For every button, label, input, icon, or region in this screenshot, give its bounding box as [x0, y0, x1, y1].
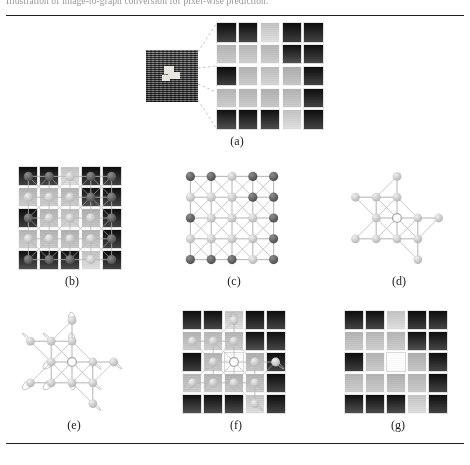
top-running-caption: Illustration of image-to-graph conversio…	[6, 0, 466, 8]
pixel-cell	[216, 66, 237, 87]
pixel-cell	[407, 352, 427, 372]
graph-node	[393, 172, 402, 181]
graph-node	[68, 316, 77, 325]
graph-node	[248, 255, 257, 264]
graph-node	[24, 255, 33, 264]
graph-node	[413, 214, 422, 223]
caption-a: (a)	[142, 134, 332, 149]
pixel-cell	[282, 44, 303, 65]
caption-c: (c)	[180, 274, 288, 289]
panel-c: (c)	[180, 166, 288, 292]
pixel-cell	[216, 44, 237, 65]
caption-d: (d)	[345, 274, 453, 289]
pixel-cell	[216, 88, 237, 109]
graph-node	[248, 193, 257, 202]
graph-node	[207, 213, 216, 222]
graph-edge	[30, 362, 51, 383]
graph-node	[227, 255, 236, 264]
graph-node	[186, 255, 195, 264]
graph-node	[230, 337, 239, 346]
pixel-cell	[303, 44, 324, 65]
graph-node	[65, 193, 74, 202]
pixel-cell	[386, 331, 406, 351]
graph-edge	[355, 197, 376, 218]
rule-top	[6, 15, 464, 16]
graph-node	[86, 234, 95, 243]
graph-overlay-b	[18, 166, 122, 270]
graph-edge	[255, 362, 276, 383]
graph-node-centre	[230, 358, 239, 367]
pixel-grid-a	[216, 22, 324, 130]
pixel-cell	[303, 109, 324, 130]
graph-node	[250, 358, 259, 367]
patch-with-graph-b	[18, 166, 122, 270]
pixel-cell	[428, 352, 448, 372]
graph-node	[45, 172, 54, 181]
source-image-thumbnail	[146, 50, 198, 102]
graph-node	[88, 399, 97, 408]
graph-node	[227, 213, 236, 222]
graph-node	[65, 172, 74, 181]
graph-node	[68, 337, 77, 346]
graph-node	[86, 255, 95, 264]
pixel-cell	[386, 352, 406, 372]
graph-node	[269, 255, 278, 264]
pixel-cell	[428, 310, 448, 330]
graph-node	[86, 213, 95, 222]
caption-b: (b)	[18, 274, 126, 289]
graph-node	[24, 234, 33, 243]
graph-node	[372, 193, 381, 202]
graph-node	[109, 358, 118, 367]
graph-node	[413, 255, 422, 264]
graph-node	[186, 213, 195, 222]
graph-node	[107, 213, 116, 222]
graph-node	[24, 193, 33, 202]
graph-node	[207, 255, 216, 264]
graph-node	[107, 255, 116, 264]
rule-bottom	[6, 443, 464, 444]
pixel-cell	[428, 394, 448, 414]
pixel-cell	[344, 352, 364, 372]
graph-node-centre	[393, 214, 402, 223]
graph-node	[269, 213, 278, 222]
panel-b: (b)	[18, 166, 126, 292]
graph-node	[88, 378, 97, 387]
pixel-cell	[282, 88, 303, 109]
figure-page: Illustration of image-to-graph conversio…	[0, 0, 470, 465]
pixel-cell	[386, 373, 406, 393]
graph-node	[207, 193, 216, 202]
graph-node	[269, 172, 278, 181]
graph-node	[65, 255, 74, 264]
pixel-cell	[344, 394, 364, 414]
graph-edge	[397, 239, 418, 260]
graph-node	[227, 172, 236, 181]
graph-node	[65, 213, 74, 222]
graph-node	[351, 234, 360, 243]
graph-edge	[93, 362, 114, 383]
pixel-cell	[260, 66, 281, 87]
graph-node	[230, 316, 239, 325]
pixel-cell	[407, 394, 427, 414]
graph-edge	[376, 176, 397, 197]
pixel-cell	[407, 310, 427, 330]
pixel-cell	[260, 22, 281, 43]
pixel-cell	[238, 109, 259, 130]
caption-f: (f)	[182, 418, 290, 433]
graph-node	[68, 378, 77, 387]
pixel-cell	[260, 109, 281, 130]
graph-node	[188, 337, 197, 346]
graph-node	[227, 234, 236, 243]
graph-overlay-f	[182, 310, 286, 414]
graph-edge	[192, 362, 213, 383]
graph-node	[45, 255, 54, 264]
graph-node	[372, 214, 381, 223]
graph-node	[107, 193, 116, 202]
pixel-cell	[238, 44, 259, 65]
graph-node	[248, 172, 257, 181]
graph-node	[188, 378, 197, 387]
graph-node	[250, 378, 259, 387]
graph-node	[107, 234, 116, 243]
pixel-cell	[282, 22, 303, 43]
graph-node	[393, 193, 402, 202]
pixel-cell	[428, 373, 448, 393]
